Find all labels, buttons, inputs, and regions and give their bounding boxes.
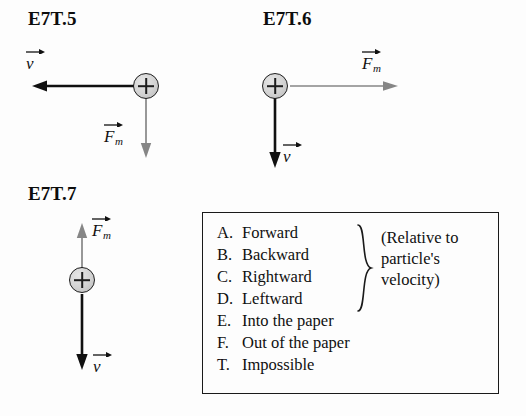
- answer-text-c: Rightward: [242, 266, 312, 288]
- answer-option-e: E. Into the paper: [217, 310, 367, 332]
- force-arrow-e7t6: [288, 76, 400, 96]
- vector-arrow-accent-icon: [361, 47, 381, 54]
- answer-option-f: F. Out of the paper: [217, 332, 367, 354]
- problem-label-e7t7: E7T.7: [28, 183, 77, 205]
- force-label-e7t7: F m: [92, 222, 111, 241]
- force-subscript-e7t6: m: [373, 62, 381, 74]
- vector-arrow-accent-icon: [91, 214, 111, 221]
- answer-key-f: F.: [217, 332, 242, 354]
- velocity-symbol-e7t7: v: [93, 357, 101, 376]
- answer-text-f: Out of the paper: [242, 332, 350, 354]
- vector-arrow-accent-icon: [282, 140, 302, 147]
- velocity-arrow-e7t7: [72, 294, 92, 372]
- answer-option-a: A. Forward: [217, 222, 367, 244]
- force-symbol-e7t5: F: [104, 127, 114, 146]
- particle-e7t5: [133, 73, 159, 99]
- force-subscript-e7t7: m: [103, 229, 111, 241]
- answer-key-c: C.: [217, 266, 242, 288]
- relative-to-velocity-note: (Relative to particle's velocity): [381, 227, 501, 290]
- answer-choices-box: A. Forward B. Backward C. Rightward D. L…: [202, 212, 499, 394]
- particle-e7t6: [262, 73, 288, 99]
- vector-arrow-accent-icon: [25, 47, 45, 54]
- answer-text-e: Into the paper: [242, 310, 334, 332]
- answer-option-b: B. Backward: [217, 244, 367, 266]
- answer-option-d: D. Leftward: [217, 288, 367, 310]
- velocity-arrow-e7t5: [30, 76, 150, 96]
- velocity-arrow-e7t6: [265, 88, 285, 170]
- force-symbol-e7t6: F: [362, 54, 372, 73]
- velocity-symbol-e7t6: v: [283, 147, 291, 166]
- force-label-e7t6: F m: [362, 55, 381, 74]
- note-line-3: velocity): [381, 269, 501, 290]
- answer-text-d: Leftward: [242, 288, 302, 310]
- velocity-symbol-e7t5: v: [26, 54, 34, 73]
- force-symbol-e7t7: F: [92, 221, 102, 240]
- note-line-1: (Relative to: [381, 227, 501, 248]
- curly-brace-icon: [355, 223, 377, 313]
- vector-arrow-accent-icon: [92, 350, 112, 357]
- answer-option-c: C. Rightward: [217, 266, 367, 288]
- velocity-label-e7t5: v: [26, 55, 34, 72]
- velocity-label-e7t6: v: [283, 148, 291, 165]
- answer-key-b: B.: [217, 244, 242, 266]
- answer-key-d: D.: [217, 288, 242, 310]
- answer-option-t: T. Impossible: [217, 354, 367, 376]
- answer-options-list: A. Forward B. Backward C. Rightward D. L…: [217, 222, 367, 376]
- vector-arrow-accent-icon: [103, 120, 123, 127]
- particle-e7t7: [69, 267, 95, 293]
- answer-text-b: Backward: [242, 244, 309, 266]
- answer-text-a: Forward: [242, 222, 298, 244]
- note-line-2: particle's: [381, 248, 501, 269]
- physics-figure-page: E7T.5 v: [0, 0, 526, 416]
- answer-key-e: E.: [217, 310, 242, 332]
- answer-key-t: T.: [217, 354, 242, 376]
- answer-key-a: A.: [217, 222, 242, 244]
- answer-text-t: Impossible: [242, 354, 314, 376]
- problem-label-e7t5: E7T.5: [28, 8, 77, 30]
- force-label-e7t5: F m: [104, 128, 123, 147]
- force-subscript-e7t5: m: [115, 135, 123, 147]
- problem-label-e7t6: E7T.6: [263, 8, 312, 30]
- velocity-label-e7t7: v: [93, 358, 101, 375]
